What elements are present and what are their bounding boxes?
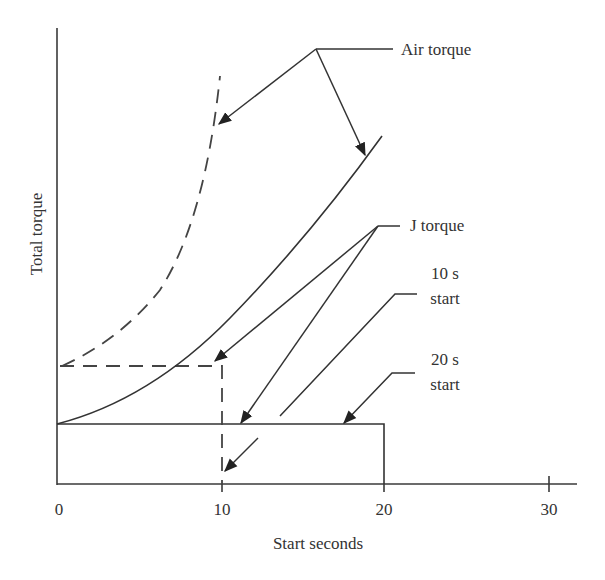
j-torque-20s-step [57,424,384,484]
x-tick-label-20: 20 [376,500,393,519]
label-10s-start-line1: 10 s [431,264,459,283]
x-tick-label-30: 30 [541,500,558,519]
x-tick-label-0: 0 [55,500,64,519]
torque-diagram: 0 10 20 30 Start seconds Total torque Ai… [0,0,605,580]
air-torque-10s-curve [62,76,220,366]
label-10s-start-line2: start [430,289,460,308]
x-tick-label-10: 10 [214,500,231,519]
start-20s-leader [344,373,415,423]
label-air-torque: Air torque [401,40,471,59]
air-torque-arrow-solid [316,49,365,155]
j-torque-arrow-20s [241,226,378,423]
air-torque-arrow-dashed [219,49,316,124]
j-torque-10s-step [60,366,222,484]
label-j-torque: J torque [410,216,464,235]
y-axis-label: Total torque [27,193,46,275]
x-axis-label: Start seconds [273,534,363,553]
label-20s-start-line1: 20 s [431,350,459,369]
start-10s-arrow [225,438,258,471]
air-torque-20s-curve [57,136,382,424]
label-20s-start-line2: start [430,375,460,394]
start-10s-leader [280,294,417,416]
